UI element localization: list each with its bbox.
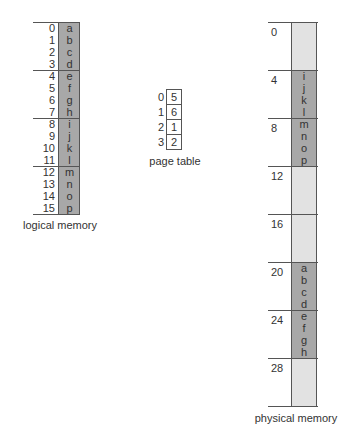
- value: a: [59, 22, 80, 34]
- frame-address: 12: [271, 170, 283, 182]
- value: m: [59, 166, 80, 178]
- frame-cell: [291, 214, 317, 262]
- address: 12: [33, 166, 55, 178]
- logical-row: 2c: [33, 46, 80, 58]
- page-index: 2: [154, 119, 164, 135]
- value: g: [292, 334, 316, 346]
- address: 1: [33, 34, 55, 46]
- value: d: [59, 58, 80, 70]
- value: f: [292, 322, 316, 334]
- address: 5: [33, 82, 55, 94]
- physical-memory-label: physical memory: [250, 412, 342, 424]
- divider: [268, 214, 318, 215]
- value: h: [59, 106, 80, 118]
- divider: [268, 166, 318, 167]
- frame-address: 16: [271, 218, 283, 230]
- value: l: [59, 154, 80, 166]
- frame-number: 6: [166, 104, 182, 120]
- logical-row: 7h: [33, 106, 80, 118]
- frame-number: 1: [166, 119, 182, 135]
- address: 2: [33, 46, 55, 58]
- address: 6: [33, 94, 55, 106]
- frame-cell: [291, 166, 317, 214]
- address: 15: [33, 202, 55, 214]
- value: j: [292, 82, 316, 94]
- address: 0: [33, 22, 55, 34]
- value: b: [59, 34, 80, 46]
- value: o: [292, 142, 316, 154]
- value: i: [59, 118, 80, 130]
- value: f: [59, 82, 80, 94]
- value: j: [59, 130, 80, 142]
- logical-row: 0a: [33, 22, 80, 34]
- value: a: [292, 262, 316, 274]
- frame-number: 2: [166, 134, 182, 150]
- divider: [268, 406, 318, 407]
- frame: 8 m n o p: [268, 118, 318, 166]
- value: m: [292, 118, 316, 130]
- address: 14: [33, 190, 55, 202]
- divider: [33, 214, 80, 215]
- frame-address: 24: [271, 314, 283, 326]
- value: c: [292, 286, 316, 298]
- page-index: 3: [154, 134, 164, 150]
- value: k: [292, 94, 316, 106]
- address: 8: [33, 118, 55, 130]
- frame-cell: [291, 22, 317, 70]
- address: 9: [33, 130, 55, 142]
- address: 10: [33, 142, 55, 154]
- divider: [268, 358, 318, 359]
- address: 3: [33, 58, 55, 70]
- value: n: [292, 130, 316, 142]
- value: k: [59, 142, 80, 154]
- frame-cell: a b c d: [291, 262, 317, 310]
- logical-row: 11l: [33, 154, 80, 166]
- divider: [268, 262, 318, 263]
- value: p: [59, 202, 80, 214]
- value: g: [59, 94, 80, 106]
- value: d: [292, 298, 316, 310]
- address: 13: [33, 178, 55, 190]
- frame: 28: [268, 358, 318, 406]
- logical-row: 4e: [33, 70, 80, 82]
- divider: [268, 22, 318, 23]
- frame: 20 a b c d: [268, 262, 318, 310]
- divider: [268, 310, 318, 311]
- logical-row: 1b: [33, 34, 80, 46]
- frame-address: 8: [271, 122, 277, 134]
- value: h: [292, 346, 316, 358]
- logical-row: 10k: [33, 142, 80, 154]
- frame: 24 e f g h: [268, 310, 318, 358]
- divider: [268, 70, 318, 71]
- frame-address: 4: [271, 74, 277, 86]
- frame: 0: [268, 22, 318, 70]
- logical-row: 15p: [33, 202, 80, 214]
- value: n: [59, 178, 80, 190]
- logical-row: 13n: [33, 178, 80, 190]
- value: i: [292, 70, 316, 82]
- value: b: [292, 274, 316, 286]
- frame-cell: [291, 358, 317, 406]
- address: 4: [33, 70, 55, 82]
- page-index: 0: [154, 89, 164, 105]
- logical-row: 9j: [33, 130, 80, 142]
- divider: [268, 118, 318, 119]
- frame-address: 0: [271, 26, 277, 38]
- value: c: [59, 46, 80, 58]
- address: 7: [33, 106, 55, 118]
- frame: 12: [268, 166, 318, 214]
- frame-cell: m n o p: [291, 118, 317, 166]
- address: 11: [33, 154, 55, 166]
- frame: 16: [268, 214, 318, 262]
- value: e: [292, 310, 316, 322]
- value: p: [292, 154, 316, 166]
- page-index: 1: [154, 104, 164, 120]
- logical-row: 3d: [33, 58, 80, 70]
- logical-row: 8i: [33, 118, 80, 130]
- logical-memory: 0a 1b 2c 3d 4e 5f 6g 7h 8i 9j 10k 11l 12…: [33, 22, 80, 214]
- frame-cell: e f g h: [291, 310, 317, 358]
- page-table-label: page table: [140, 155, 210, 167]
- value: o: [59, 190, 80, 202]
- value: l: [292, 106, 316, 118]
- logical-row: 6g: [33, 94, 80, 106]
